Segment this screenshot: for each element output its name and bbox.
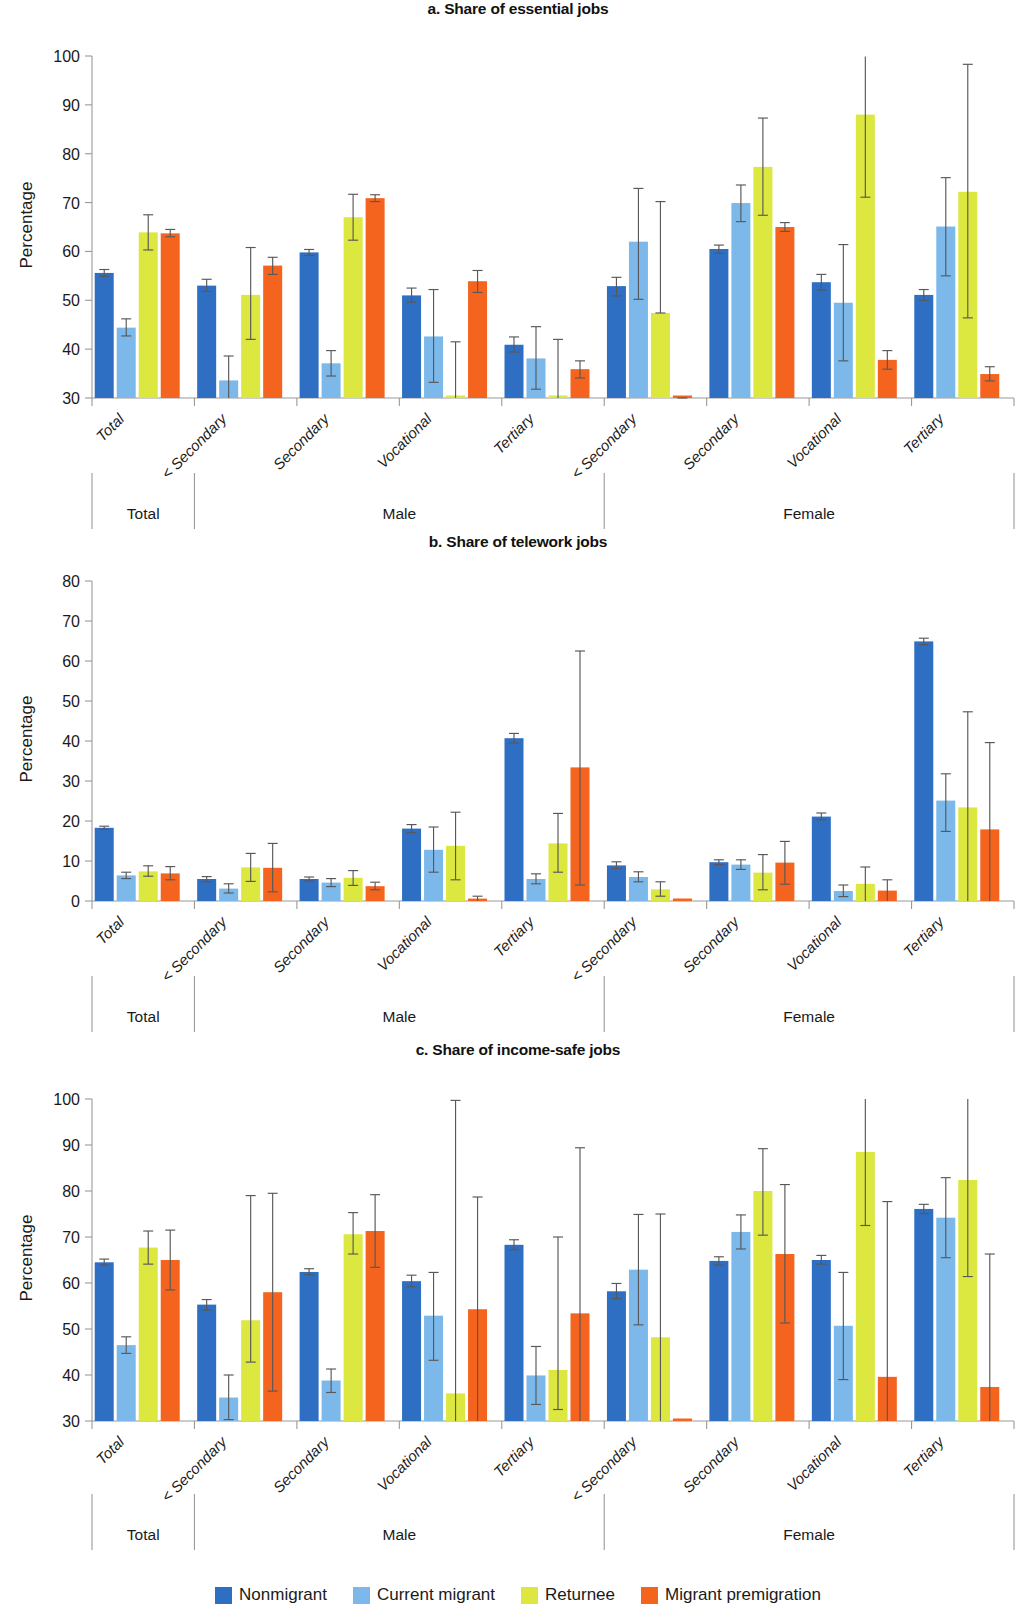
panel-c-y-axis-label: Percentage xyxy=(17,1203,37,1313)
bar xyxy=(607,1291,626,1421)
group-band-label: Male xyxy=(383,1526,417,1543)
bar xyxy=(651,313,670,398)
x-axis-category-label: Vocational xyxy=(783,410,845,472)
bar xyxy=(95,273,114,398)
y-axis-tick-label: 20 xyxy=(62,813,80,830)
panel-b-svg: 01020304050607080Total< SecondarySeconda… xyxy=(0,551,1036,1041)
group-band-label: Female xyxy=(783,1008,835,1025)
x-axis-category-label: Tertiary xyxy=(490,912,538,960)
x-axis-category-label: Secondary xyxy=(679,912,743,976)
bar xyxy=(197,286,216,398)
group-band-label: Total xyxy=(127,1526,160,1543)
x-axis-category-label: Vocational xyxy=(374,1433,436,1495)
bar xyxy=(300,252,319,398)
x-axis-category-label: Total xyxy=(93,1433,128,1468)
legend-item[interactable]: Current migrant xyxy=(353,1585,495,1605)
x-axis-category-label: < Secondary xyxy=(158,409,231,482)
legend-item[interactable]: Returnee xyxy=(521,1585,615,1605)
y-axis-tick-label: 60 xyxy=(62,1275,80,1292)
panel-b-title: b. Share of telework jobs xyxy=(0,533,1036,551)
legend-label: Nonmigrant xyxy=(239,1585,327,1605)
bar xyxy=(117,328,136,398)
bar xyxy=(95,1262,114,1421)
x-axis-category-label: Total xyxy=(93,913,128,948)
legend-label: Migrant premigration xyxy=(665,1585,821,1605)
x-axis-category-label: < Secondary xyxy=(158,912,231,985)
panel-a-svg: 30405060708090100Total< SecondarySeconda… xyxy=(0,18,1036,533)
bar xyxy=(117,1345,136,1421)
y-axis-tick-label: 90 xyxy=(62,1137,80,1154)
panel-c: c. Share of income-safe jobs Percentage … xyxy=(0,1041,1036,1559)
bar xyxy=(402,295,421,398)
y-axis-tick-label: 40 xyxy=(62,341,80,358)
x-axis-category-label: Tertiary xyxy=(900,409,948,457)
y-axis-tick-label: 70 xyxy=(62,613,80,630)
bar xyxy=(468,281,487,398)
bar xyxy=(161,233,180,398)
panel-b: b. Share of telework jobs Percentage 010… xyxy=(0,533,1036,1041)
bar xyxy=(117,875,136,901)
bar xyxy=(709,249,728,398)
y-axis-tick-label: 0 xyxy=(71,893,80,910)
y-axis-tick-label: 30 xyxy=(62,1413,80,1430)
error-bar xyxy=(655,202,665,313)
y-axis-tick-label: 70 xyxy=(62,1229,80,1246)
y-axis-tick-label: 50 xyxy=(62,1321,80,1338)
bar xyxy=(673,899,692,902)
x-axis-category-label: < Secondary xyxy=(568,912,641,985)
bar xyxy=(366,198,385,398)
error-bar xyxy=(553,339,563,398)
y-axis-tick-label: 100 xyxy=(53,1091,80,1108)
bar xyxy=(607,865,626,901)
panel-c-plot: Percentage 30405060708090100Total< Secon… xyxy=(0,1059,1036,1559)
legend-item[interactable]: Migrant premigration xyxy=(641,1585,821,1605)
panel-a-plot: Percentage 30405060708090100Total< Secon… xyxy=(0,18,1036,533)
panel-a-y-axis-label: Percentage xyxy=(17,170,37,280)
panel-c-svg: 30405060708090100Total< SecondarySeconda… xyxy=(0,1059,1036,1559)
x-axis-category-label: Tertiary xyxy=(490,409,538,457)
y-axis-tick-label: 30 xyxy=(62,773,80,790)
bar xyxy=(812,817,831,901)
bar xyxy=(812,1260,831,1421)
y-axis-tick-label: 40 xyxy=(62,733,80,750)
chart-legend: NonmigrantCurrent migrantReturneeMigrant… xyxy=(0,1585,1036,1605)
bar xyxy=(263,266,282,398)
group-band-label: Female xyxy=(783,1526,835,1543)
panel-c-title: c. Share of income-safe jobs xyxy=(0,1041,1036,1059)
bar xyxy=(344,217,363,398)
bar xyxy=(139,1248,158,1421)
group-band-label: Total xyxy=(127,505,160,522)
y-axis-tick-label: 100 xyxy=(53,48,80,65)
bar xyxy=(505,345,524,398)
y-axis-tick-label: 10 xyxy=(62,853,80,870)
y-axis-tick-label: 70 xyxy=(62,195,80,212)
legend-swatch-icon xyxy=(353,1587,370,1604)
bar xyxy=(139,232,158,398)
y-axis-tick-label: 60 xyxy=(62,653,80,670)
x-axis-category-label: Secondary xyxy=(269,912,333,976)
x-axis-category-label: Secondary xyxy=(679,1432,743,1496)
x-axis-category-label: Vocational xyxy=(783,1433,845,1495)
bar xyxy=(197,1305,216,1421)
panel-a: a. Share of essential jobs Percentage 30… xyxy=(0,0,1036,533)
bar xyxy=(775,227,794,398)
y-axis-tick-label: 50 xyxy=(62,292,80,309)
x-axis-category-label: Tertiary xyxy=(900,912,948,960)
x-axis-category-label: Secondary xyxy=(269,409,333,473)
bar xyxy=(914,295,933,398)
legend-item[interactable]: Nonmigrant xyxy=(215,1585,327,1605)
legend-swatch-icon xyxy=(641,1587,658,1604)
y-axis-tick-label: 30 xyxy=(62,390,80,407)
bar xyxy=(731,865,750,901)
error-bar xyxy=(451,1100,461,1421)
bar xyxy=(344,1234,363,1421)
x-axis-category-label: Vocational xyxy=(374,913,436,975)
legend-label: Returnee xyxy=(545,1585,615,1605)
panel-a-title: a. Share of essential jobs xyxy=(0,0,1036,18)
bar xyxy=(731,1232,750,1421)
bar xyxy=(607,286,626,398)
bar xyxy=(300,1272,319,1421)
legend-swatch-icon xyxy=(521,1587,538,1604)
bar xyxy=(914,1209,933,1421)
group-band-label: Male xyxy=(383,1008,417,1025)
